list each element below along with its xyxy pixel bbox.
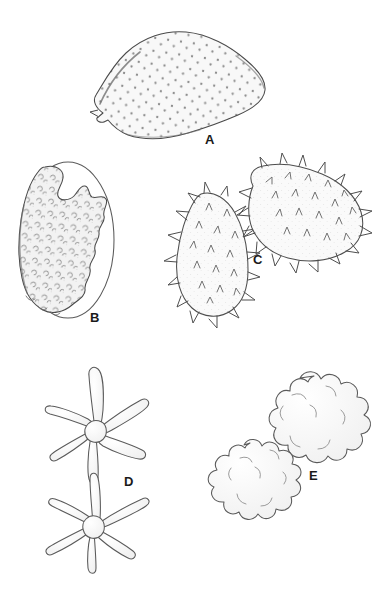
- figure-label-c: C: [253, 253, 263, 266]
- figure-b-specimen: [19, 162, 114, 318]
- figure-d-lower-centre: [83, 516, 105, 539]
- figure-label-a: A: [205, 133, 215, 146]
- figure-d-upper-centre: [85, 421, 107, 443]
- figure-label-e: E: [309, 469, 318, 482]
- figure-label-b: B: [90, 311, 100, 324]
- figure-label-d: D: [124, 475, 134, 488]
- specimen-plate: [0, 0, 385, 608]
